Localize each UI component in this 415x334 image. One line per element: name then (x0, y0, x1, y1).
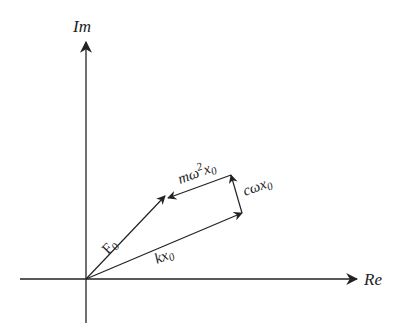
vector-f0 (86, 196, 165, 279)
phasor-diagram: Im Re F0 kx0 cωx0 mω2x0 (0, 0, 415, 334)
svg-text:mω2x0: mω2x0 (175, 155, 219, 188)
label-kx0: kx0 (152, 244, 177, 268)
real-axis-label: Re (363, 270, 382, 289)
label-f0: F0 (99, 236, 122, 259)
vector-cwx0 (231, 175, 242, 213)
imaginary-axis-label: Im (72, 17, 91, 36)
label-cwx0: cωx0 (241, 174, 275, 201)
svg-text:cωx0: cωx0 (241, 174, 275, 201)
label-mw2x0: mω2x0 (175, 155, 219, 188)
svg-text:kx0: kx0 (152, 244, 177, 268)
svg-text:F0: F0 (99, 236, 122, 259)
